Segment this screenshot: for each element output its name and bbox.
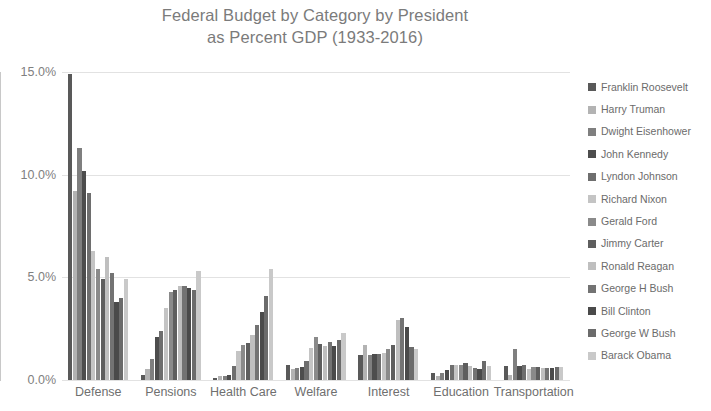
bar[interactable] <box>400 318 404 380</box>
bar[interactable] <box>468 366 472 380</box>
legend-item[interactable]: George H Bush <box>588 278 711 300</box>
bar[interactable] <box>124 279 128 380</box>
bar[interactable] <box>173 290 177 380</box>
bar[interactable] <box>450 365 454 380</box>
bar[interactable] <box>323 346 327 380</box>
bar[interactable] <box>382 353 386 380</box>
bar[interactable] <box>328 342 332 380</box>
bar[interactable] <box>241 345 245 380</box>
bar[interactable] <box>145 369 149 380</box>
bar[interactable] <box>436 376 440 380</box>
bar[interactable] <box>77 148 81 380</box>
bar[interactable] <box>196 271 200 380</box>
bar[interactable] <box>440 373 444 380</box>
bar[interactable] <box>391 345 395 380</box>
bar[interactable] <box>155 337 159 380</box>
bar[interactable] <box>269 269 273 380</box>
bar[interactable] <box>159 331 163 380</box>
bar[interactable] <box>341 333 345 380</box>
legend-item[interactable]: Lyndon Johnson <box>588 166 711 188</box>
bar[interactable] <box>550 368 554 380</box>
bar[interactable] <box>87 193 91 380</box>
bar[interactable] <box>545 368 549 380</box>
bar[interactable] <box>304 361 308 381</box>
bar[interactable] <box>141 375 145 380</box>
bar[interactable] <box>264 296 268 380</box>
bar[interactable] <box>314 337 318 380</box>
bar[interactable] <box>473 368 477 380</box>
bar[interactable] <box>358 355 362 380</box>
bar[interactable] <box>372 354 376 380</box>
bar[interactable] <box>536 367 540 380</box>
bar[interactable] <box>332 346 336 380</box>
bar[interactable] <box>318 344 322 380</box>
bar[interactable] <box>150 359 154 380</box>
bar[interactable] <box>409 347 413 380</box>
bar[interactable] <box>508 375 512 380</box>
legend-item[interactable]: Bill Clinton <box>588 300 711 322</box>
legend-item[interactable]: George W Bush <box>588 322 711 344</box>
bar[interactable] <box>513 349 517 380</box>
bar[interactable] <box>236 351 240 380</box>
legend-item[interactable]: Ronald Reagan <box>588 255 711 277</box>
bar[interactable] <box>101 279 105 380</box>
bar[interactable] <box>414 349 418 380</box>
bar[interactable] <box>517 366 521 380</box>
bar[interactable] <box>386 349 390 380</box>
bar[interactable] <box>164 308 168 380</box>
bar[interactable] <box>91 251 95 380</box>
bar[interactable] <box>396 320 400 380</box>
bar[interactable] <box>218 376 222 380</box>
legend-item[interactable]: Gerald Ford <box>588 210 711 232</box>
bar[interactable] <box>377 354 381 380</box>
bar[interactable] <box>309 348 313 380</box>
bar[interactable] <box>169 292 173 380</box>
bar[interactable] <box>114 302 118 380</box>
bar[interactable] <box>454 365 458 380</box>
bar[interactable] <box>260 312 264 380</box>
bar[interactable] <box>555 367 559 380</box>
bar[interactable] <box>227 375 231 380</box>
bar[interactable] <box>477 369 481 380</box>
bar[interactable] <box>463 363 467 380</box>
bar[interactable] <box>213 378 217 380</box>
bar[interactable] <box>431 373 435 380</box>
bar[interactable] <box>223 376 227 380</box>
bar[interactable] <box>246 343 250 380</box>
bar[interactable] <box>527 369 531 380</box>
legend-item[interactable]: Barack Obama <box>588 345 711 367</box>
bar[interactable] <box>337 340 341 380</box>
bar[interactable] <box>232 366 236 380</box>
bar[interactable] <box>291 369 295 380</box>
bar[interactable] <box>405 327 409 380</box>
bar[interactable] <box>192 290 196 380</box>
bar[interactable] <box>300 367 304 380</box>
legend-item[interactable]: Richard Nixon <box>588 188 711 210</box>
bar[interactable] <box>559 367 563 380</box>
bar[interactable] <box>178 286 182 380</box>
bar[interactable] <box>368 355 372 380</box>
bar[interactable] <box>187 288 191 380</box>
bar[interactable] <box>482 361 486 381</box>
legend-item[interactable]: Franklin Roosevelt <box>588 76 711 98</box>
bar[interactable] <box>82 171 86 380</box>
bar[interactable] <box>105 257 109 380</box>
bar[interactable] <box>96 269 100 380</box>
bar[interactable] <box>445 370 449 380</box>
bar[interactable] <box>363 345 367 380</box>
bar[interactable] <box>68 74 72 380</box>
legend-item[interactable]: John Kennedy <box>588 143 711 165</box>
bar[interactable] <box>459 365 463 380</box>
bar[interactable] <box>73 191 77 380</box>
legend-item[interactable]: Jimmy Carter <box>588 233 711 255</box>
bar[interactable] <box>286 365 290 380</box>
legend-item[interactable]: Dwight Eisenhower <box>588 121 711 143</box>
bar[interactable] <box>531 367 535 380</box>
bar[interactable] <box>295 368 299 380</box>
bar[interactable] <box>119 298 123 380</box>
bar[interactable] <box>487 366 491 380</box>
bar[interactable] <box>182 286 186 380</box>
bar[interactable] <box>110 273 114 380</box>
bar[interactable] <box>504 366 508 380</box>
bar[interactable] <box>250 335 254 380</box>
